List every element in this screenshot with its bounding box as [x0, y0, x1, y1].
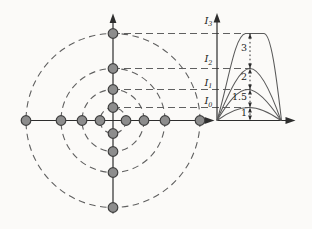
gap-label-1-5: 1.5	[232, 91, 247, 102]
horizontal-axis-arrow-icon	[205, 117, 215, 124]
plot-y-axis-arrow-icon	[214, 13, 221, 23]
arrow-down-icon	[248, 85, 252, 90]
lattice-dot	[95, 116, 105, 126]
lattice-dot	[108, 129, 118, 139]
level-label-i2: I2	[203, 53, 212, 67]
lattice-dot	[108, 203, 118, 213]
lattice-dot	[56, 116, 66, 126]
lattice-dot	[108, 85, 118, 95]
lattice-dot	[195, 116, 205, 126]
gap-label-2: 2	[241, 71, 247, 82]
gap-label-3: 3	[241, 42, 247, 53]
lattice-dot	[121, 116, 131, 126]
arrow-down-icon	[248, 116, 252, 121]
lattice-dot	[108, 147, 118, 157]
lattice-dot	[108, 168, 118, 178]
arrow-down-icon	[248, 64, 252, 69]
arrow-up-icon	[248, 69, 252, 74]
intensity-curve-i0	[217, 108, 281, 121]
lattice-dot	[139, 116, 149, 126]
level-label-i1: I1	[203, 77, 212, 91]
lattice-dot	[77, 116, 87, 126]
pattern-diagram	[21, 14, 250, 214]
plot-x-axis-arrow-icon	[286, 117, 296, 124]
vertical-axis-arrow-icon	[110, 14, 117, 24]
level-label-i0: I0	[203, 95, 212, 109]
intensity-plot: I3 I2 I1 I0 3 2 1.5 1	[203, 13, 295, 124]
arrow-up-icon	[248, 108, 252, 113]
level-label-i3: I3	[203, 15, 212, 29]
arrow-down-icon	[248, 103, 252, 108]
figure: I3 I2 I1 I0 3 2 1.5 1	[0, 0, 312, 229]
lattice-dot	[108, 103, 118, 113]
lattice-dot	[108, 29, 118, 39]
lattice-dot	[108, 64, 118, 74]
lattice-dot	[21, 116, 31, 126]
diagram-canvas: I3 I2 I1 I0 3 2 1.5 1	[0, 0, 312, 229]
arrow-up-icon	[248, 34, 252, 39]
lattice-dot	[160, 116, 170, 126]
gap-label-1: 1	[241, 107, 247, 118]
